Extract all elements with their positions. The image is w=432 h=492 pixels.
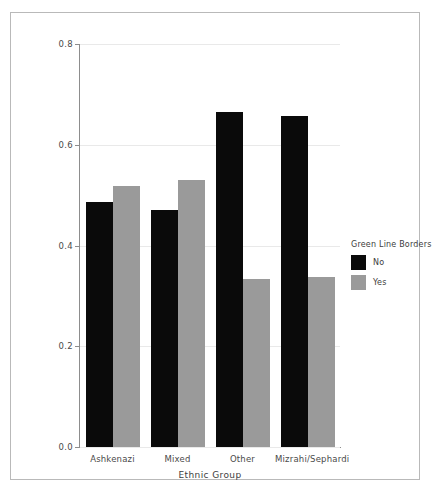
legend-item-yes[interactable]: Yes [351, 275, 431, 290]
bar-mizrahi-sephardi-no [281, 116, 308, 447]
y-tick-label-0.2: 0.2 [59, 341, 73, 351]
bar-mixed-yes [178, 180, 205, 447]
legend-title: Green Line Borders [351, 240, 431, 249]
x-tick-label-ashkenazi: Ashkenazi [80, 454, 145, 464]
x-axis-title: Ethnic Group [80, 470, 340, 480]
bar-other-no [216, 112, 243, 447]
legend-label-no: No [373, 258, 384, 267]
gridline-0.0 [80, 447, 340, 448]
x-tick-label-mixed: Mixed [145, 454, 210, 464]
legend-swatch-no [351, 255, 366, 270]
legend-item-no[interactable]: No [351, 255, 431, 270]
bar-mixed-no [151, 210, 178, 447]
legend-label-yes: Yes [373, 278, 387, 287]
figure-frame: Proportion 0.0 0.2 0.4 0.6 0.8 Ashkenazi… [10, 12, 420, 480]
legend-swatch-yes [351, 275, 366, 290]
y-tick-label-0.6: 0.6 [59, 140, 73, 150]
y-tick-label-0.8: 0.8 [59, 39, 73, 49]
bar-ashkenazi-yes [113, 186, 140, 447]
y-tick-label-0.4: 0.4 [59, 241, 73, 251]
bar-ashkenazi-no [86, 202, 113, 447]
y-axis-tick-labels: 0.0 0.2 0.4 0.6 0.8 [39, 13, 73, 492]
bar-mizrahi-sephardi-yes [308, 277, 335, 447]
y-tick-label-0.0: 0.0 [59, 442, 73, 452]
plot-area [80, 44, 340, 447]
bar-other-yes [243, 279, 270, 447]
gridline-0.8 [80, 44, 340, 45]
x-tick-label-other: Other [210, 454, 275, 464]
x-tick-label-mizrahi-sephardi: Mizrahi/Sephardi [275, 454, 340, 464]
legend: Green Line Borders No Yes [351, 240, 431, 295]
